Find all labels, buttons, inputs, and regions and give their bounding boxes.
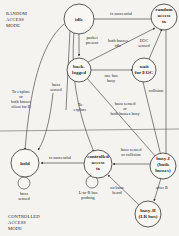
svg-text:ACCESS: ACCESS: [6, 17, 24, 22]
svg-text:heard: heard: [112, 190, 122, 195]
svg-text:sensed: sensed: [138, 43, 150, 48]
svg-text:silent for B: silent for B: [11, 104, 30, 109]
svg-text:MODE: MODE: [6, 23, 20, 28]
svg-text:idle: idle: [115, 43, 122, 48]
state-random-access-tx: random access tx: [151, 4, 177, 30]
svg-text:busy-I: busy-I: [156, 156, 170, 161]
svg-text:access: access: [91, 160, 104, 165]
svg-text:logged: logged: [72, 70, 86, 75]
state-hold: hold: [11, 149, 39, 177]
svg-text:(LR bus): (LR bus): [138, 214, 157, 219]
svg-text:access: access: [157, 13, 170, 18]
svg-text:CONTROLLED: CONTROLLED: [8, 214, 40, 219]
svg-text:(both: (both: [157, 162, 169, 167]
svg-text:explore: explore: [74, 107, 87, 112]
svg-text:both busses busy: both busses busy: [110, 111, 140, 116]
svg-text:random: random: [156, 7, 174, 12]
svg-text:tx successful: tx successful: [110, 11, 133, 16]
svg-text:MODE: MODE: [8, 226, 22, 231]
svg-text:wait: wait: [139, 64, 149, 69]
svg-text:ACCESS: ACCESS: [8, 220, 26, 225]
svg-text:controlled: controlled: [87, 154, 109, 159]
svg-text:busy: busy: [107, 78, 116, 83]
svg-text:RANDOM: RANDOM: [6, 11, 27, 16]
state-busy-2: busy-II (LR bus): [135, 201, 161, 227]
svg-text:tx: tx: [162, 19, 167, 24]
state-diagram: RANDOM ACCESS MODE CONTROLLED ACCESS MOD…: [0, 0, 179, 236]
svg-text:busy-II: busy-II: [140, 208, 156, 213]
svg-text:tx: tx: [96, 166, 101, 171]
state-idle: idle: [64, 4, 94, 34]
state-backlogged: back- logged: [67, 58, 91, 82]
svg-text:tx successful: tx successful: [49, 155, 72, 160]
svg-text:for EOC: for EOC: [135, 70, 154, 75]
svg-text:or collision: or collision: [121, 152, 141, 157]
svg-text:sensed: sensed: [18, 196, 30, 201]
svg-text:sensed: sensed: [50, 87, 62, 92]
svg-text:present: present: [86, 40, 99, 45]
svg-text:busses): busses): [155, 168, 171, 173]
svg-text:probing: probing: [81, 195, 95, 200]
state-controlled-access-tx: controlled access tx: [84, 150, 112, 178]
random-access-mode-label: RANDOM ACCESS MODE: [6, 11, 27, 28]
svg-text:after B: after B: [156, 185, 168, 190]
svg-text:back-: back-: [73, 64, 85, 69]
state-busy-1: busy-I (both busses): [150, 153, 176, 179]
state-wait-for-eoc: wait for EOC: [132, 58, 156, 82]
svg-text:collision: collision: [149, 88, 165, 93]
controlled-access-mode-label: CONTROLLED ACCESS MODE: [8, 214, 40, 231]
svg-text:hold: hold: [20, 161, 30, 166]
svg-text:idle: idle: [75, 17, 84, 22]
